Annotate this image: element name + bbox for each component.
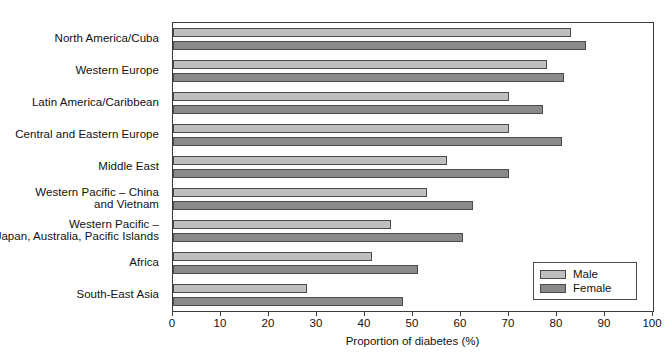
category-label-2: Latin America/Caribbean: [32, 96, 159, 109]
category-axis-labels: North America/CubaWestern EuropeLatin Am…: [0, 22, 165, 310]
x-tick-label-60: 60: [454, 317, 467, 329]
bar-female-1: [173, 73, 564, 82]
category-label-8: South-East Asia: [76, 288, 159, 301]
legend-label-male: Male: [573, 268, 598, 280]
category-label-3: Central and Eastern Europe: [15, 128, 159, 141]
category-label-7: Africa: [129, 256, 159, 269]
x-tick-50: [412, 311, 413, 316]
bar-male-3: [173, 124, 509, 133]
legend-item-male: Male: [540, 267, 630, 281]
bar-female-3: [173, 137, 562, 146]
x-tick-70: [508, 311, 509, 316]
category-label-4: Middle East: [98, 160, 159, 173]
x-tick-label-80: 80: [550, 317, 563, 329]
x-tick-label-40: 40: [358, 317, 371, 329]
bar-female-7: [173, 265, 418, 274]
bar-female-2: [173, 105, 543, 114]
x-tick-60: [460, 311, 461, 316]
legend-item-female: Female: [540, 281, 630, 295]
bar-chart: North America/CubaWestern EuropeLatin Am…: [0, 0, 664, 361]
bar-male-8: [173, 284, 307, 293]
bar-female-0: [173, 41, 586, 50]
x-tick-label-30: 30: [310, 317, 323, 329]
bar-male-0: [173, 28, 571, 37]
legend-swatch-male-icon: [540, 270, 566, 279]
bar-male-5: [173, 188, 427, 197]
x-tick-label-100: 100: [642, 317, 661, 329]
bar-male-6: [173, 220, 391, 229]
x-tick-90: [604, 311, 605, 316]
category-label-5: Western Pacific – China and Vietnam: [35, 186, 159, 211]
x-tick-20: [268, 311, 269, 316]
x-tick-label-50: 50: [406, 317, 419, 329]
x-tick-label-10: 10: [214, 317, 227, 329]
x-tick-80: [556, 311, 557, 316]
legend-swatch-female-icon: [540, 284, 566, 293]
bar-male-1: [173, 60, 547, 69]
x-tick-label-70: 70: [502, 317, 515, 329]
x-tick-label-20: 20: [262, 317, 275, 329]
bar-female-8: [173, 297, 403, 306]
bar-male-7: [173, 252, 372, 261]
bar-male-2: [173, 92, 509, 101]
x-axis-title: Proportion of diabetes (%): [172, 335, 653, 347]
chart-legend: Male Female: [533, 262, 637, 300]
x-tick-label-0: 0: [169, 317, 175, 329]
category-label-0: North America/Cuba: [55, 32, 159, 45]
category-label-1: Western Europe: [75, 64, 159, 77]
x-tick-40: [364, 311, 365, 316]
category-label-6: Western Pacific – Japan, Australia, Paci…: [0, 218, 159, 243]
x-tick-100: [652, 311, 653, 316]
x-tick-30: [316, 311, 317, 316]
x-tick-10: [220, 311, 221, 316]
bar-male-4: [173, 156, 447, 165]
bar-female-5: [173, 201, 473, 210]
x-tick-0: [172, 311, 173, 316]
bar-female-6: [173, 233, 463, 242]
legend-label-female: Female: [573, 282, 611, 294]
bar-female-4: [173, 169, 509, 178]
x-tick-label-90: 90: [598, 317, 611, 329]
